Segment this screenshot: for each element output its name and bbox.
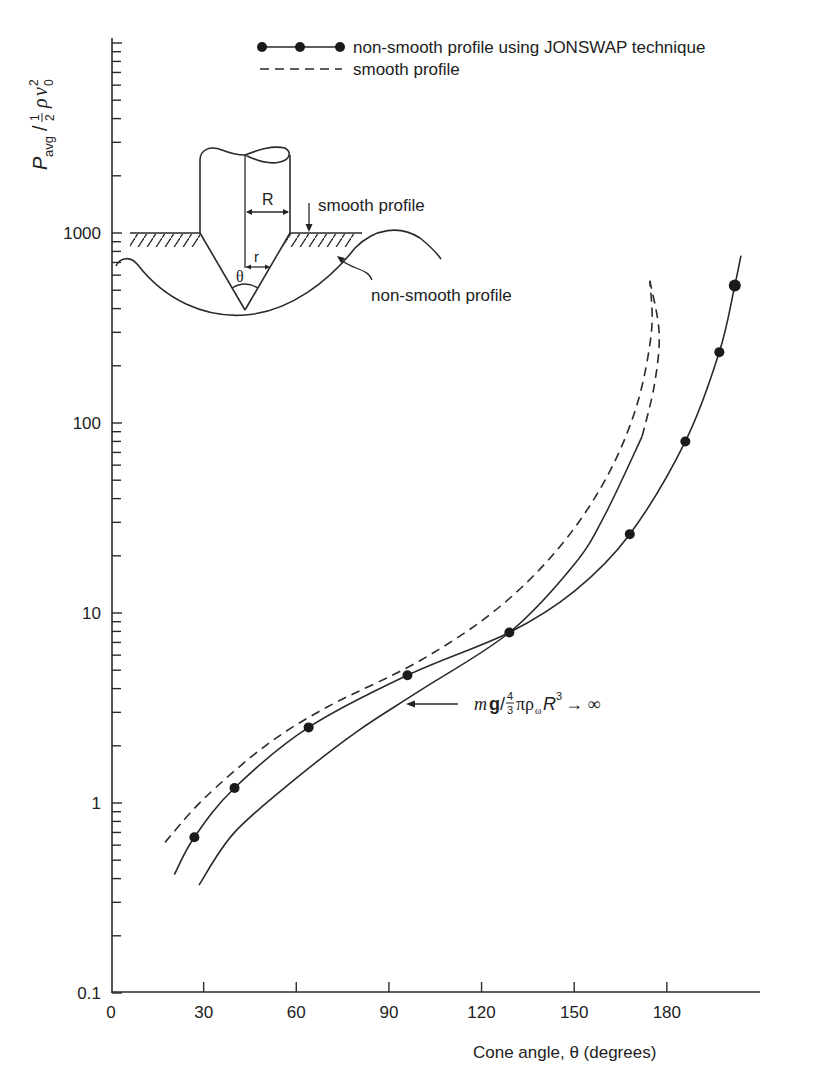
x-tick-label: 180 <box>653 1003 681 1022</box>
ground-hatch-right <box>283 234 362 247</box>
chart: 10001001010.1 0306090120150180 P avg / 1… <box>0 0 835 1084</box>
x-tick-label: 30 <box>194 1003 213 1022</box>
ground-hatch-left <box>130 234 200 247</box>
y-tick-label: 10 <box>82 604 101 623</box>
ylabel-v: v <box>29 87 51 96</box>
data-curves <box>165 256 741 885</box>
legend-item-jonswap: non-smooth profile using JONSWAP techniq… <box>257 38 705 57</box>
x-axis-tick-labels: 0306090120150180 <box>106 1003 681 1022</box>
legend-label-jonswap: non-smooth profile using JONSWAP techniq… <box>353 38 705 57</box>
data-markers <box>189 279 740 842</box>
x-axis-label: Cone angle, θ (degrees) <box>473 1043 656 1062</box>
data-point-marker <box>189 832 199 842</box>
series-line-1 <box>165 281 652 843</box>
legend-label-smooth: smooth profile <box>353 60 460 79</box>
ylabel-frac-num: 1 <box>28 114 42 121</box>
annot-g: g <box>489 694 500 714</box>
x-tick-label: 120 <box>467 1003 495 1022</box>
ylabel-rho: ρ <box>29 98 52 109</box>
annot-den: 3 <box>507 704 513 716</box>
annot-rho-sub: ω <box>535 705 542 716</box>
legend-marker-icon <box>335 42 345 52</box>
annot-pi-rho: πρ <box>516 694 534 714</box>
x-tick-label: 60 <box>287 1003 306 1022</box>
label-smooth-profile: smooth profile <box>318 196 425 215</box>
data-point-marker <box>729 279 741 291</box>
x-tick-label: 150 <box>560 1003 588 1022</box>
x-tick-label: 90 <box>379 1003 398 1022</box>
data-point-marker <box>304 722 314 732</box>
data-point-marker <box>230 783 240 793</box>
series-line-0 <box>174 256 741 875</box>
data-point-marker <box>680 436 690 446</box>
ylabel-p: P <box>29 156 51 170</box>
label-non-smooth-profile: non-smooth profile <box>371 286 512 305</box>
x-axis-ticks <box>204 982 667 992</box>
legend: non-smooth profile using JONSWAP techniq… <box>257 38 705 79</box>
inset-diagram: R r θ smooth profile non-smooth profile <box>116 147 512 315</box>
ylabel-sub: avg <box>41 136 56 157</box>
y-tick-label: 1000 <box>63 224 101 243</box>
y-tick-label: 1 <box>92 794 101 813</box>
ylabel-v-sup: 2 <box>27 79 41 86</box>
data-point-marker <box>625 529 635 539</box>
ylabel-v-sub: 0 <box>42 79 56 86</box>
data-point-marker <box>714 347 724 357</box>
annot-num: 4 <box>507 690 513 702</box>
x-tick-label: 0 <box>106 1003 115 1022</box>
label-R: R <box>262 191 274 208</box>
data-point-marker <box>402 670 412 680</box>
ylabel-frac-den: 2 <box>43 114 57 121</box>
annot-R: R <box>543 694 556 714</box>
arrowhead-icon <box>283 209 289 215</box>
arrowhead-icon <box>306 224 313 232</box>
label-theta: θ <box>236 268 244 285</box>
y-axis-tick-labels: 10001001010.1 <box>63 224 101 1003</box>
legend-marker-icon <box>295 42 305 52</box>
data-point-marker <box>504 627 514 637</box>
y-tick-label: 100 <box>73 414 101 433</box>
cone-right-edge <box>245 233 290 310</box>
legend-marker-icon <box>257 42 267 52</box>
legend-item-smooth: smooth profile <box>260 60 460 79</box>
y-tick-label: 0.1 <box>77 984 101 1003</box>
arrowhead-icon <box>406 701 415 708</box>
axes: 10001001010.1 0306090120150180 <box>63 38 760 1022</box>
annot-slash: / <box>500 694 505 714</box>
annot-arrow-infinity: → ∞ <box>565 694 601 714</box>
series-line-2-dashed-continuation <box>642 281 659 437</box>
annot-R-sup: 3 <box>556 690 562 702</box>
arrowhead-icon <box>246 209 252 215</box>
label-r: r <box>254 248 259 265</box>
y-axis-ticks <box>112 43 122 993</box>
non-smooth-pointer <box>340 259 372 280</box>
y-axis-label: P avg / 1 2 ρ v 2 0 <box>27 79 57 170</box>
annot-m: m <box>474 694 487 714</box>
annotation-infinite-mass: m g / 4 3 πρ ω R 3 → ∞ <box>406 690 601 716</box>
svg-text:/: / <box>29 125 51 131</box>
arrowhead-icon <box>246 265 251 270</box>
